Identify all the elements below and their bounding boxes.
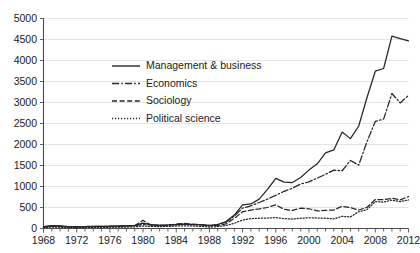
legend-label-2: Sociology — [146, 94, 192, 106]
legend: Management & businessEconomicsSociologyP… — [112, 59, 262, 124]
y-tick-label-3000: 3000 — [14, 96, 38, 108]
y-tick-label-4000: 4000 — [14, 54, 38, 66]
y-tick-label-2000: 2000 — [14, 138, 38, 150]
series-line-economics — [44, 93, 409, 226]
x-tick-label-2012: 2012 — [397, 234, 420, 246]
x-tick-label-1996: 1996 — [264, 234, 288, 246]
axes-group — [40, 18, 409, 233]
x-tick-label-2008: 2008 — [364, 234, 388, 246]
gridlines-group — [44, 19, 409, 208]
line-chart: 0500100015002000250030003500400045005000… — [0, 0, 420, 253]
y-tick-label-1500: 1500 — [14, 159, 38, 171]
y-tick-label-500: 500 — [19, 201, 37, 213]
chart-canvas: 0500100015002000250030003500400045005000… — [0, 0, 420, 253]
x-axis-tick-labels: 1968197219761980198419881992199620002004… — [32, 234, 420, 246]
x-tick-label-1976: 1976 — [98, 234, 122, 246]
x-tick-label-1988: 1988 — [198, 234, 222, 246]
y-tick-label-0: 0 — [31, 222, 37, 234]
legend-label-0: Management & business — [146, 59, 262, 71]
y-tick-label-5000: 5000 — [14, 12, 38, 24]
x-tick-label-2000: 2000 — [297, 234, 321, 246]
y-tick-label-2500: 2500 — [14, 117, 38, 129]
x-tick-label-1992: 1992 — [231, 234, 255, 246]
y-tick-label-1000: 1000 — [14, 180, 38, 192]
x-tick-label-2004: 2004 — [330, 234, 354, 246]
legend-label-3: Political science — [146, 112, 221, 124]
x-tick-label-1984: 1984 — [165, 234, 189, 246]
y-axis-tick-labels: 0500100015002000250030003500400045005000 — [14, 12, 38, 234]
y-tick-label-3500: 3500 — [14, 75, 38, 87]
x-tick-label-1972: 1972 — [65, 234, 89, 246]
x-tick-label-1980: 1980 — [131, 234, 155, 246]
x-tick-label-1968: 1968 — [32, 234, 56, 246]
y-tick-label-4500: 4500 — [14, 33, 38, 45]
legend-label-1: Economics — [146, 77, 197, 89]
